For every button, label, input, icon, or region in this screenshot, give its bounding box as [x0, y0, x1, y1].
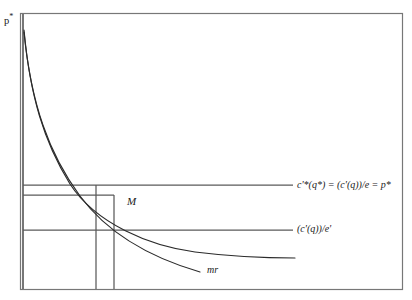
figure-canvas	[0, 0, 412, 300]
monopoly-pricing-figure: p* c'*(q*) = (c'(q))/e = p* (c'(q))/e' M…	[0, 0, 412, 300]
monopoly-point-label: M	[127, 196, 136, 207]
upper-price-line-label: c'*(q*) = (c'(q))/e = p*	[297, 180, 391, 190]
y-axis-label: p*	[4, 13, 13, 26]
lower-price-line-label: (c'(q))/e'	[297, 224, 331, 234]
plot-frame	[21, 14, 403, 290]
marginal-revenue-curve	[24, 32, 200, 272]
marginal-revenue-curve-label: mr	[207, 265, 218, 275]
y-axis-label-star: *	[9, 12, 13, 21]
demand-curve	[24, 30, 295, 258]
